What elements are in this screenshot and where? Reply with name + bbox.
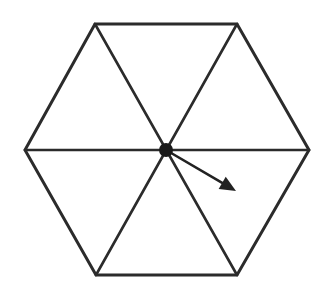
arrowhead-icon: [219, 177, 236, 191]
hexagon-diagram: [0, 0, 321, 296]
center-point: [159, 143, 173, 157]
